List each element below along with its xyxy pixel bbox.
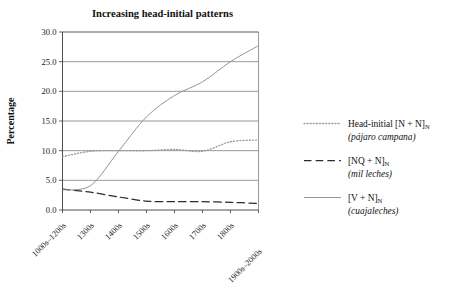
legend-label-1: Head-initial [N + N]N [348,119,430,130]
y-tick-label: 20.0 [41,86,56,96]
legend-label-3: [V + N]N [348,193,383,204]
y-axis-title: Percentage [5,97,16,145]
x-tick-label: 1300s [75,221,96,242]
line-chart: Increasing head-initial patternsPercenta… [0,0,457,289]
x-tick-label: 1400s [103,221,124,242]
legend-subscript-2: N [385,160,390,167]
y-tick-label: 15.0 [41,116,56,126]
x-tick-label: 1900s–2000s [226,247,264,285]
series-line-2 [63,189,259,203]
legend-example-3: (cuajaleches) [348,206,399,217]
legend-label-2: [NQ + N]N [348,156,390,167]
x-axis-group: 1000s–1200s1300s1400s1500s1600s1700s1800… [30,210,264,285]
grid-group: 0.05.010.015.020.025.030.0 [41,27,258,215]
y-tick-label: 25.0 [41,57,56,67]
series-line-1 [63,140,259,157]
chart-title: Increasing head-initial patterns [92,8,233,19]
x-tick-label: 1800s [215,221,236,242]
legend-example-2: (mil leches) [348,169,392,180]
series-line-3 [63,46,259,190]
legend-subscript-3: N [378,197,383,204]
x-tick-label: 1600s [159,221,180,242]
legend: Head-initial [N + N]N(pájaro campana)[NQ… [304,119,430,217]
series-group [63,46,259,204]
legend-example-1: (pájaro campana) [348,132,416,143]
legend-subscript-1: N [425,123,430,130]
x-tick-label: 1000s–1200s [30,221,68,259]
y-tick-label: 10.0 [41,146,56,156]
y-tick-label: 5.0 [46,175,57,185]
x-tick-label: 1700s [187,221,208,242]
chart-figure: Increasing head-initial patternsPercenta… [0,0,457,289]
x-tick-label: 1500s [131,221,152,242]
y-tick-label: 0.0 [46,205,57,215]
y-tick-label: 30.0 [41,27,56,37]
